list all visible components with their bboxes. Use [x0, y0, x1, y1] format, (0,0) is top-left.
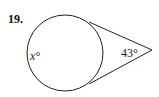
- arc-label: x°: [29, 49, 40, 63]
- angle-label: 43°: [121, 46, 138, 60]
- geometry-figure: x° 43°: [0, 0, 159, 97]
